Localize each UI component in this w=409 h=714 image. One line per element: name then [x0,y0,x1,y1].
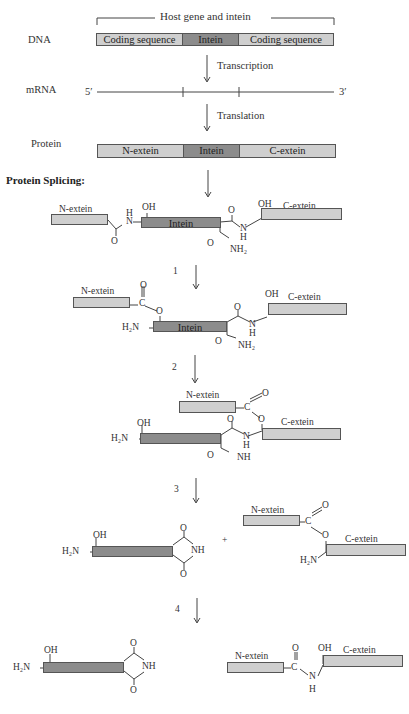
three-prime-label: 3′ [339,86,347,97]
stage3-oh: OH [93,530,107,540]
stage1-c: C [139,298,145,308]
stage4-o-bot: O [130,685,137,695]
stage2-oh: OH [137,418,151,428]
stage3-o-link: O [322,530,329,540]
stage2-n-extein-box [179,401,236,413]
stage4-intein-box [43,662,124,673]
stage1-n-extein-box [73,297,130,308]
stage4-oh: OH [44,645,58,655]
stage0-intein-box: Intein [141,217,221,228]
stage4-oh-right: OH [318,643,332,653]
stage0-c-extein-box [261,208,342,220]
stage2-n-extein-label: N-extein [186,390,219,400]
stage3-h2n-right: H₂N [300,555,317,565]
protein-c-extein: C-extein [239,144,336,158]
stage3-c: C [305,516,311,526]
stage1-n-extein-label: N-extein [81,286,114,296]
stage3-o-bot: O [180,569,187,579]
stage2-intein-box [140,433,221,444]
stage0-nh2: NH₂ [230,244,247,254]
translation-label: Translation [217,110,264,121]
stage1-intein-box: Intein [153,321,227,332]
transcription-label: Transcription [217,60,273,71]
dna-row-label: DNA [28,34,51,45]
host-gene-bracket-label: Host gene and intein [160,10,251,22]
stage4-nh: NH [142,661,156,671]
stage1-nh2: NH₂ [238,340,255,350]
stage2-o2: O [227,414,234,424]
stage1-h: H [249,328,256,338]
stage2-h2n: H₂N [111,433,128,443]
stage0-oh-intein: OH [142,202,156,212]
stage0-n-extein-box [51,214,108,225]
protein-n-extein: N-extein [97,144,184,158]
stage0-n-extein-label: N-extein [59,204,92,214]
stage4-n-extein-label: N-extein [235,651,268,661]
stage4-c: C [291,662,297,672]
stage0-o1: O [111,236,118,246]
plus-sign: + [222,535,227,545]
stage4-h2n: H₂N [13,662,30,672]
stage0-n: N [126,216,133,226]
stage3-intein-box [92,546,173,557]
stage4-h: H [309,684,316,694]
stage2-h: H [243,440,250,450]
stage4-c-extein-label: C-extein [343,645,376,655]
stage4-c-extein-box [323,655,403,667]
stage3-nh: NH [191,545,205,555]
stage1-o-double: O [140,280,147,290]
stage3-o-top: O [180,523,187,533]
stage4-n: N [309,671,316,681]
stage3-o-double: O [322,500,329,510]
stage1-o-link: O [156,306,163,316]
stage3-c-extein-label: C-extein [345,534,378,544]
stage3-n-extein-box [243,515,300,526]
stage1-o2: O [234,302,241,312]
stage2-nh: NH [237,452,251,462]
stage1-oh: OH [265,289,279,299]
stage1-o3: O [215,336,222,346]
stage0-h2: H [240,232,247,242]
stage2-c-extein-label: C-extein [281,417,314,427]
stage3-c-extein-box [326,544,406,556]
mrna-row-label: mRNA [26,84,56,95]
step-1-label: 1 [173,266,178,276]
stage1-h2n: H₂N [122,322,139,332]
stage1-c-extein-label: C-extein [288,292,321,302]
stage2-o3: O [207,450,214,460]
stage2-c-extein-box [262,428,341,440]
dna-intein-segment: Intein [182,33,239,46]
stage0-o2: O [228,205,235,215]
stage3-n-extein-label: N-extein [251,505,284,515]
stage4-n-extein-box [227,662,284,673]
diagram-lines [0,0,409,714]
dna-coding-sequence-1: Coding sequence [96,33,183,46]
stage4-o: O [292,643,299,653]
protein-intein: Intein [183,144,240,158]
stage2-c: C [244,402,250,412]
stage0-o3: O [207,238,214,248]
step-4-label: 4 [175,604,180,614]
stage3-h2n: H₂N [62,546,79,556]
stage1-c-extein-box [268,303,347,315]
five-prime-label: 5′ [85,86,93,97]
step-2-label: 2 [172,362,177,372]
protein-row-label: Protein [31,138,61,149]
step-3-label: 3 [174,484,179,494]
stage4-o-top: O [130,638,137,648]
protein-splicing-heading: Protein Splicing: [6,174,85,186]
stage2-o-link: O [258,414,265,424]
stage2-o-double: O [262,388,269,398]
dna-coding-sequence-2: Coding sequence [238,33,334,46]
